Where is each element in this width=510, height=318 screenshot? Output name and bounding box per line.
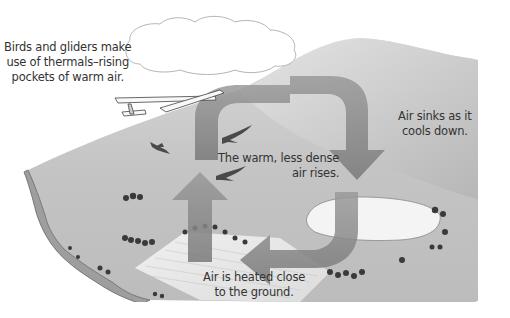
lake: [306, 197, 440, 241]
thermals-diagram: Birds and gliders make use of thermals–r…: [0, 0, 510, 318]
label-air-sinks: Air sinks as it cools down.: [398, 109, 472, 139]
label-air-heated: Air is heated close to the ground.: [203, 270, 305, 300]
label-birds-gliders: Birds and gliders make use of thermals–r…: [4, 40, 131, 85]
cloud-icon: [126, 16, 296, 74]
label-air-rises: The warm, less dense air rises.: [218, 151, 339, 181]
